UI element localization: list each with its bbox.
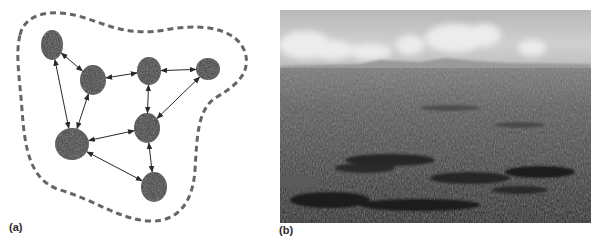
edge-n2-n3 xyxy=(106,73,137,78)
node-n3 xyxy=(137,57,161,85)
edge-n3-n4 xyxy=(161,69,196,70)
node-n2 xyxy=(80,65,106,95)
panel-a-network-diagram: (a) xyxy=(0,0,270,250)
node-n7 xyxy=(141,172,167,202)
panel-b-label: (b) xyxy=(279,224,293,236)
edge-n4-n5 xyxy=(157,77,200,118)
node-n1 xyxy=(41,30,63,60)
edges-group xyxy=(55,53,200,181)
panel-b-landscape-photo: (b) xyxy=(270,0,597,250)
network-diagram xyxy=(0,0,270,250)
edge-n2-n6 xyxy=(77,94,88,129)
edge-n5-n7 xyxy=(149,143,152,172)
edge-n1-n6 xyxy=(55,60,69,129)
edge-n3-n5 xyxy=(148,85,149,113)
node-n6 xyxy=(55,128,89,160)
edge-n6-n7 xyxy=(87,152,142,181)
edge-n1-n2 xyxy=(61,53,82,71)
node-n5 xyxy=(134,113,160,143)
node-n4 xyxy=(196,58,220,80)
panel-a-label: (a) xyxy=(9,221,22,233)
landscape-photo xyxy=(270,0,597,250)
edge-n5-n6 xyxy=(89,131,135,141)
